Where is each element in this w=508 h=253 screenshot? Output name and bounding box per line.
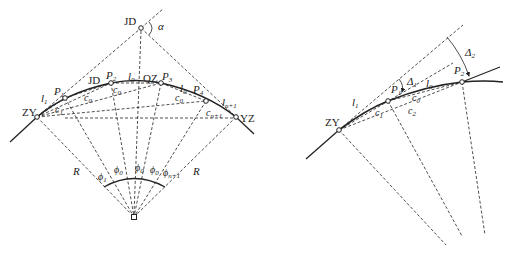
jd-point [139, 26, 144, 31]
label-l0-b: l0 [180, 82, 187, 96]
label-cn1: cn+1 [206, 107, 222, 120]
label-phi1: ϕ1 [98, 171, 107, 184]
central-angle-arc [104, 179, 165, 188]
label-jd-top: JD [124, 15, 136, 27]
label-zy: ZY [22, 106, 37, 118]
label-r-left: R [72, 165, 80, 177]
curve-layout-diagram: JD α ZY YZ JD QZ P1 P2 P3 P4 l1 l0 l0 ln… [0, 0, 508, 253]
label-ln1: ln+1 [222, 96, 237, 110]
label-c2-right: c2 [408, 105, 416, 118]
label-l1-right: l1 [352, 96, 359, 110]
p4-point [204, 99, 209, 104]
label-delta1: Δ1 [406, 75, 417, 89]
p2-point-right [460, 80, 465, 85]
label-l0-a: l0 [128, 70, 135, 84]
label-p3: P3 [161, 70, 173, 84]
label-c0-b: c0 [113, 84, 121, 97]
label-p4: P4 [192, 83, 204, 97]
center-point [132, 215, 137, 220]
label-p1-right: P1 [390, 83, 401, 97]
alpha-arc [149, 22, 152, 35]
label-qz: QZ [143, 72, 158, 84]
circular-curve-right [339, 81, 503, 130]
label-phi0-b: ϕ0 [135, 162, 144, 175]
approach-tangent [10, 117, 37, 142]
label-alpha: α [158, 20, 164, 32]
label-zy-right: ZY [325, 116, 340, 128]
label-delta2: Δ2 [464, 46, 475, 60]
label-l1: l1 [41, 92, 48, 106]
label-phi0-c: ϕ0 [150, 164, 159, 177]
label-r-right: R [192, 165, 200, 177]
label-c0-a: c0 [84, 92, 92, 105]
label-c0-right: c0 [412, 92, 420, 105]
tangent-at-zy [339, 25, 463, 130]
label-l0-right: l0 [426, 77, 433, 91]
p1-point-right [386, 99, 391, 104]
label-yz: YZ [240, 112, 255, 124]
label-c1-right: c1 [375, 107, 383, 120]
label-p1: P1 [53, 85, 64, 99]
right-labels: ZY P1 P2 l1 l0 c1 c0 c2 Δ1 Δ2 [325, 46, 475, 128]
label-phin1: ϕn+1 [163, 167, 180, 180]
tangent-at-p2 [462, 67, 500, 82]
label-p2: P2 [105, 69, 117, 83]
zy-point-right [337, 128, 342, 133]
yz-point [234, 115, 239, 120]
label-p2-right: P2 [453, 64, 465, 78]
label-jd-mid: JD [88, 74, 100, 86]
label-phi0-a: ϕ0 [114, 164, 123, 177]
